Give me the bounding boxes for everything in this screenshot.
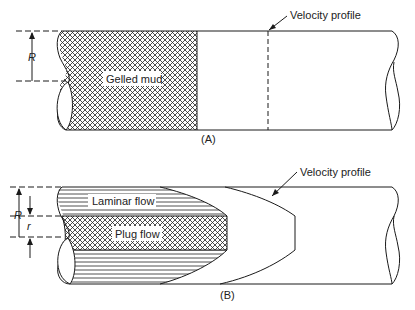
diagram: Velocity profile Gelled mud R (A) Lamina… xyxy=(0,0,415,310)
gelled-mud-label: Gelled mud xyxy=(106,73,162,85)
plug-radius-label: r xyxy=(27,220,32,232)
laminar-flow-label: Laminar flow xyxy=(92,195,154,207)
panel-b: Laminar flow Plug flow Velocity profile … xyxy=(10,166,400,301)
pipe-right-break xyxy=(385,31,399,130)
arrow-icon xyxy=(27,208,33,215)
arrow-icon xyxy=(29,32,35,39)
velocity-profile-label-b: Velocity profile xyxy=(300,166,371,178)
caption-b: (B) xyxy=(220,289,235,301)
pipe-right-break xyxy=(385,187,399,284)
plug-flow-label: Plug flow xyxy=(115,228,160,240)
arrow-icon xyxy=(16,188,22,195)
radius-label-a: R xyxy=(28,51,36,63)
velocity-profile-curve xyxy=(220,187,295,284)
arrow-icon xyxy=(27,238,33,245)
radius-label-b: R xyxy=(14,209,22,221)
panel-a: Velocity profile Gelled mud R (A) xyxy=(16,9,400,145)
caption-a: (A) xyxy=(201,133,216,145)
velocity-profile-label-a: Velocity profile xyxy=(290,9,361,21)
